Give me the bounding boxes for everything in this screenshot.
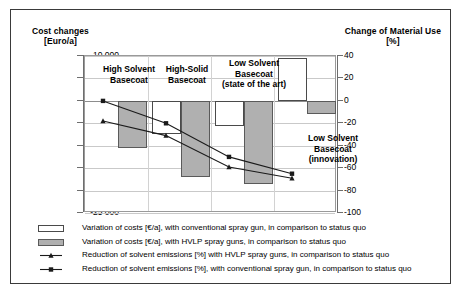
right-axis-title-name: Change of Material Use — [345, 26, 441, 36]
category-label-4: Low Solvent Basecoat (innovation) — [287, 133, 379, 165]
right-tick-mark — [337, 77, 343, 78]
left-tick-mark — [77, 212, 83, 213]
legend-item-3: Reduction of solvent emissions [%] with … — [38, 249, 441, 262]
right-tick-mark — [337, 212, 343, 213]
bar-white-swatch — [38, 225, 64, 232]
legend-label: Reduction of solvent emissions [%], with… — [82, 264, 412, 273]
right-tick-mark — [337, 190, 343, 191]
left-tick-mark — [77, 77, 83, 78]
gridline — [85, 213, 335, 214]
right-tick-label: 20 — [344, 72, 384, 82]
left-tick-mark — [77, 100, 83, 101]
chart-legend: Variation of costs [€/a], with conventio… — [20, 222, 441, 276]
right-tick-mark — [337, 167, 343, 168]
right-tick-mark — [337, 55, 343, 56]
right-tick-label: -100 — [344, 207, 384, 217]
right-tick-label: 40 — [344, 50, 384, 60]
legend-label: Reduction of solvent emissions [%] with … — [82, 250, 389, 259]
left-axis-title-name: Cost changes — [32, 26, 89, 36]
left-axis-title-unit: [Euro/a] — [32, 36, 89, 47]
marker-square — [164, 121, 168, 125]
bar-gray-swatch — [38, 239, 64, 246]
legend-item-4: Reduction of solvent emissions [%], with… — [38, 263, 441, 276]
right-axis-title: Change of Material Use [%] — [345, 15, 441, 47]
marker-square — [290, 172, 294, 176]
right-tick-mark — [337, 122, 343, 123]
left-tick-mark — [77, 145, 83, 146]
legend-label: Variation of costs [€/a], with HVLP spra… — [82, 237, 346, 246]
right-tick-mark — [337, 100, 343, 101]
legend-item-2: Variation of costs [€/a], with HVLP spra… — [38, 236, 441, 249]
left-tick-mark — [77, 55, 83, 56]
line-square-marker — [38, 266, 64, 273]
legend-label: Variation of costs [€/a], with conventio… — [82, 223, 366, 232]
marker-triangle — [100, 118, 105, 123]
right-tick-label: 0 — [344, 95, 384, 105]
left-tick-mark — [77, 190, 83, 191]
marker-square — [101, 99, 105, 103]
right-axis-title-unit: [%] — [386, 36, 400, 46]
line-hvlp — [103, 121, 292, 178]
left-tick-mark — [77, 167, 83, 168]
chart-figure: Cost changes [Euro/a] Change of Material… — [10, 9, 451, 284]
line-conventional — [103, 101, 292, 174]
line-triangle-marker — [38, 252, 64, 259]
category-label-3: Low Solvent Basecoat (state of the art) — [208, 58, 300, 90]
right-tick-label: -20 — [344, 117, 384, 127]
marker-square — [227, 155, 231, 159]
right-tick-label: -80 — [344, 185, 384, 195]
left-tick-mark — [77, 122, 83, 123]
legend-item-1: Variation of costs [€/a], with conventio… — [38, 222, 441, 235]
